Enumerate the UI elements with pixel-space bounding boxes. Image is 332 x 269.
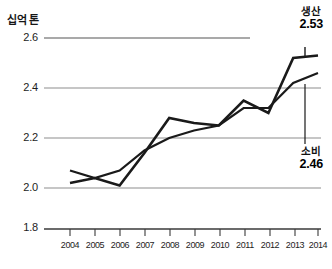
series-annotation-consumption-value: 2.46: [299, 157, 323, 172]
x-axis-tick-label-2011: 2011: [231, 240, 259, 250]
x-axis-tick-label-2010: 2010: [206, 240, 234, 250]
series-annotation-production: 생산 2.53: [299, 5, 323, 32]
x-axis-tick-label-2007: 2007: [131, 240, 159, 250]
series-line-production: [70, 56, 318, 186]
series-annotation-production-value: 2.53: [299, 17, 323, 32]
x-axis-tick-label-2009: 2009: [181, 240, 209, 250]
x-axis-tick-label-2014: 2014: [304, 240, 332, 250]
series-annotation-consumption: 소비 2.46: [299, 145, 323, 172]
x-axis-tick-label-2005: 2005: [81, 240, 109, 250]
series-annotation-production-name: 생산: [299, 5, 323, 17]
series-line-consumption: [70, 73, 318, 178]
x-axis-tick-label-2012: 2012: [256, 240, 284, 250]
x-axis-ticks: [70, 229, 318, 236]
x-axis-tick-label-2008: 2008: [156, 240, 184, 250]
series-annotation-consumption-name: 소비: [299, 145, 323, 157]
x-axis-tick-label-2006: 2006: [106, 240, 134, 250]
x-axis-tick-label-2004: 2004: [56, 240, 84, 250]
